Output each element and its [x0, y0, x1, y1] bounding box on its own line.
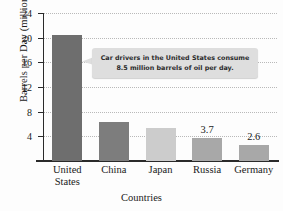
x-axis-tick-label-line: Russia	[193, 164, 221, 176]
x-axis-tick-label-line: Germany	[234, 164, 273, 176]
bar	[52, 35, 82, 161]
y-axis-tick-label: 4	[2, 131, 32, 142]
y-axis-tick-label: 20	[2, 32, 32, 43]
y-axis-tick-label: 8	[2, 106, 32, 117]
annotation-line-1: Car drivers in the United States consume	[96, 53, 254, 63]
x-axis-tick-label-line: States	[53, 176, 82, 188]
bar-chart: Barrels per Day (millions) 4812162024 3.…	[0, 0, 283, 211]
x-axis-tick-label-line: China	[101, 164, 126, 176]
x-axis-tick-label: Japan	[149, 164, 173, 176]
bar	[239, 145, 269, 161]
y-axis-tick-label: 24	[2, 8, 32, 19]
annotation-line-2: 8.5 million barrels of oil per day.	[96, 63, 254, 73]
x-axis-tick-label: Russia	[193, 164, 221, 176]
bar	[99, 122, 129, 161]
x-axis-tick-label: Germany	[234, 164, 273, 176]
bar	[146, 128, 176, 161]
x-axis-tick-label-line: United	[53, 164, 82, 176]
bar	[192, 138, 222, 161]
x-axis-title: Countries	[0, 192, 283, 203]
y-axis-tick-label: 16	[2, 57, 32, 68]
bar-value-label: 2.6	[247, 131, 260, 142]
x-axis-tick-label-line: Japan	[149, 164, 173, 176]
annotation-callout: Car drivers in the United States consume…	[92, 48, 258, 78]
plot-area	[44, 13, 277, 161]
x-axis-tick-label: UnitedStates	[53, 164, 82, 187]
y-axis-tick-label: 12	[2, 82, 32, 93]
bar-value-label: 3.7	[201, 124, 214, 135]
x-axis-tick-label: China	[101, 164, 126, 176]
